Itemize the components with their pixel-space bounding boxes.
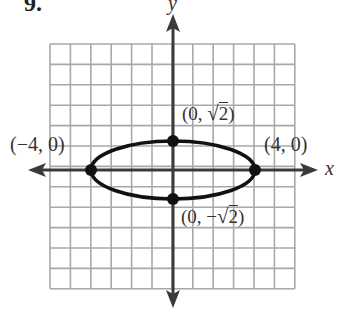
point-0-sqrt2	[167, 135, 179, 147]
label-0-neg-sqrt2: (0, −√2)	[181, 204, 244, 229]
label-0-sqrt2: (0, √2)	[182, 101, 235, 126]
label-neg4-0: (−4, 0)	[10, 133, 65, 156]
y-axis-label: y	[168, 0, 177, 15]
point-0-neg-sqrt2	[167, 193, 179, 205]
ellipse-graph	[0, 0, 346, 314]
sqrt-icon: √	[217, 204, 229, 228]
label-4-0: (4, 0)	[264, 133, 307, 156]
point-neg4-0	[85, 164, 97, 176]
point-4-0	[249, 164, 261, 176]
x-axis-label: x	[325, 157, 334, 180]
sqrt-icon: √	[207, 101, 219, 125]
